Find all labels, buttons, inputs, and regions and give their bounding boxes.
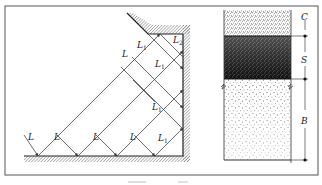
label-B: B xyxy=(300,116,308,126)
label-L-5: L xyxy=(121,49,128,59)
floor-hatch xyxy=(24,156,190,162)
layer-C xyxy=(224,10,291,36)
label-L1-1: L1 xyxy=(136,40,147,51)
wall-hatch xyxy=(183,25,190,162)
label-L-2: L xyxy=(53,132,60,142)
right-panel: C S B xyxy=(221,10,308,163)
left-panel: L L L L L L1 L1 L1 L1 L2 xyxy=(24,13,190,162)
caption-remnant xyxy=(128,181,146,183)
label-L1-4: L1 xyxy=(157,133,168,144)
dimension-line xyxy=(291,20,308,160)
label-L-1: L xyxy=(27,132,34,142)
label-L2: L2 xyxy=(172,35,183,46)
label-S: S xyxy=(301,55,307,65)
diagram-figure: L L L L L L1 L1 L1 L1 L2 xyxy=(0,0,322,185)
label-L1-2: L1 xyxy=(154,59,165,70)
label-C: C xyxy=(301,12,308,22)
label-L1-3: L1 xyxy=(151,102,162,113)
label-L-3: L xyxy=(92,132,99,142)
label-L-4: L xyxy=(129,132,136,142)
ledge-hatch xyxy=(127,13,190,34)
